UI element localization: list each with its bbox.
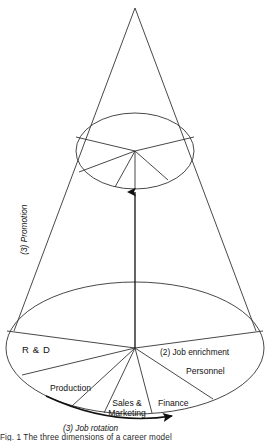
upper-ellipse xyxy=(76,113,194,189)
sector-label-personnel: Personnel xyxy=(186,367,225,377)
sector-label-sales-line2: Marketing xyxy=(101,409,153,419)
sector-divider-personnel-top xyxy=(135,331,263,348)
sector-label-finance: Finance xyxy=(158,399,189,409)
sector-label-rd: R & D xyxy=(22,345,50,356)
figure-caption: Fig. 1 The three dimensions of a career … xyxy=(0,433,275,441)
annotation-promotion: (3) Promotion xyxy=(20,185,29,275)
sector-label-sales-marketing: Sales & Marketing xyxy=(101,399,153,418)
sector-label-production: Production xyxy=(50,384,91,394)
cone-diagram xyxy=(0,0,275,441)
annotation-job-enrichment: (2) Job enrichment xyxy=(160,348,229,357)
figure-canvas: R & D Production Sales & Marketing Finan… xyxy=(0,0,275,441)
annotation-job-rotation: (3) Job rotation xyxy=(63,424,118,433)
